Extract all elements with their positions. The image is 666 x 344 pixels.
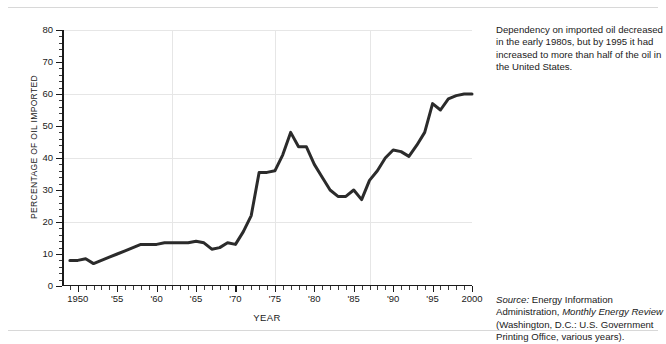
x-tick-minor: [370, 286, 371, 290]
x-tick-minor: [86, 286, 87, 290]
x-tick-minor: [385, 286, 386, 290]
x-tick-2000: [472, 286, 473, 292]
x-tick-label-1975: '75: [269, 294, 281, 304]
x-tick-label-1955: '55: [111, 294, 123, 304]
x-tick-minor: [188, 286, 189, 290]
y-tick-0: [56, 286, 62, 287]
x-tick-1990: [393, 286, 394, 292]
source-label: Source:: [496, 294, 529, 305]
x-tick-minor: [401, 286, 402, 290]
x-tick-minor: [283, 286, 284, 290]
y-tick-label-30: 30: [42, 185, 53, 195]
y-tick-label-10: 10: [42, 249, 53, 259]
x-tick-label-1995: '95: [426, 294, 438, 304]
y-tick-label-20: 20: [42, 217, 53, 227]
chart-caption: Dependency on imported oil decreased in …: [496, 24, 666, 74]
x-tick-minor: [228, 286, 229, 290]
x-tick-minor: [440, 286, 441, 290]
x-tick-minor: [243, 286, 244, 290]
y-tick-label-0: 0: [48, 281, 53, 291]
x-tick-1980: [314, 286, 315, 292]
x-tick-minor: [133, 286, 134, 290]
x-tick-minor: [322, 286, 323, 290]
x-tick-1970: [235, 286, 236, 292]
x-tick-minor: [338, 286, 339, 290]
x-tick-1960: [157, 286, 158, 292]
x-tick-minor: [109, 286, 110, 290]
y-axis-title: PERCENTAGE OF OIL IMPORTED: [29, 37, 39, 257]
x-tick-minor: [165, 286, 166, 290]
page-rule-top: [8, 7, 658, 8]
x-tick-minor: [220, 286, 221, 290]
x-tick-minor: [456, 286, 457, 290]
x-tick-minor: [306, 286, 307, 290]
y-tick-label-60: 60: [42, 89, 53, 99]
x-tick-minor: [251, 286, 252, 290]
x-tick-1965: [196, 286, 197, 292]
x-tick-minor: [149, 286, 150, 290]
x-tick-minor: [212, 286, 213, 290]
x-tick-minor: [125, 286, 126, 290]
source-text-after: (Washington, D.C.: U.S. Government Print…: [496, 319, 653, 342]
line-chart: PERCENTAGE OF OIL IMPORTED 0102030405060…: [0, 12, 666, 324]
x-tick-minor: [180, 286, 181, 290]
y-tick-label-40: 40: [42, 153, 53, 163]
x-tick-label-1980: '80: [308, 294, 320, 304]
x-tick-minor: [172, 286, 173, 290]
x-tick-1955: [117, 286, 118, 292]
x-tick-label-1985: '85: [348, 294, 360, 304]
x-tick-minor: [204, 286, 205, 290]
x-tick-minor: [259, 286, 260, 290]
x-tick-minor: [141, 286, 142, 290]
x-tick-minor: [464, 286, 465, 290]
x-tick-minor: [267, 286, 268, 290]
x-tick-minor: [377, 286, 378, 290]
x-tick-label-1965: '65: [190, 294, 202, 304]
x-tick-1985: [354, 286, 355, 292]
source-publication: Monthly Energy Review: [562, 306, 663, 317]
x-tick-minor: [94, 286, 95, 290]
y-tick-label-50: 50: [42, 121, 53, 131]
x-tick-minor: [291, 286, 292, 290]
chart-source: Source: Energy Information Administratio…: [496, 294, 666, 344]
x-tick-label-1950: 1950: [67, 294, 88, 304]
x-tick-minor: [409, 286, 410, 290]
x-tick-minor: [425, 286, 426, 290]
x-tick-label-1990: '90: [387, 294, 399, 304]
figure-page: PERCENTAGE OF OIL IMPORTED 0102030405060…: [0, 0, 666, 344]
x-tick-minor: [362, 286, 363, 290]
x-tick-1995: [433, 286, 434, 292]
x-tick-minor: [346, 286, 347, 290]
y-tick-label-80: 80: [42, 25, 53, 35]
x-tick-1975: [275, 286, 276, 292]
x-tick-minor: [70, 286, 71, 290]
y-tick-label-70: 70: [42, 57, 53, 67]
x-tick-label-1960: '60: [150, 294, 162, 304]
x-tick-minor: [299, 286, 300, 290]
x-tick-minor: [448, 286, 449, 290]
x-axis-title: YEAR: [62, 312, 472, 323]
x-tick-minor: [417, 286, 418, 290]
plot-area: 01020304050607080 1950'55'60'65'70'75'80…: [62, 30, 472, 286]
x-tick-1950: [78, 286, 79, 292]
x-tick-minor: [330, 286, 331, 290]
x-tick-label-2000: 2000: [461, 294, 482, 304]
x-tick-minor: [101, 286, 102, 290]
data-series-line: [62, 30, 472, 286]
x-tick-label-1970: '70: [229, 294, 241, 304]
